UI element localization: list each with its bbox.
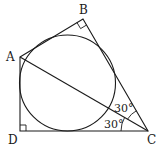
angle-label-dca: 30° (104, 118, 124, 131)
angle-label-acb: 30° (114, 102, 134, 115)
vertex-label-d: D (8, 133, 18, 146)
inscribed-circle (20, 35, 116, 131)
vertex-label-b: B (79, 3, 88, 17)
vertex-label-c: C (147, 133, 156, 146)
right-angle-marker-d (20, 125, 26, 131)
diagonal-ac (20, 57, 148, 131)
geometry-diagram: B A D C 30° 30° (0, 0, 163, 146)
vertex-label-a: A (5, 50, 15, 64)
